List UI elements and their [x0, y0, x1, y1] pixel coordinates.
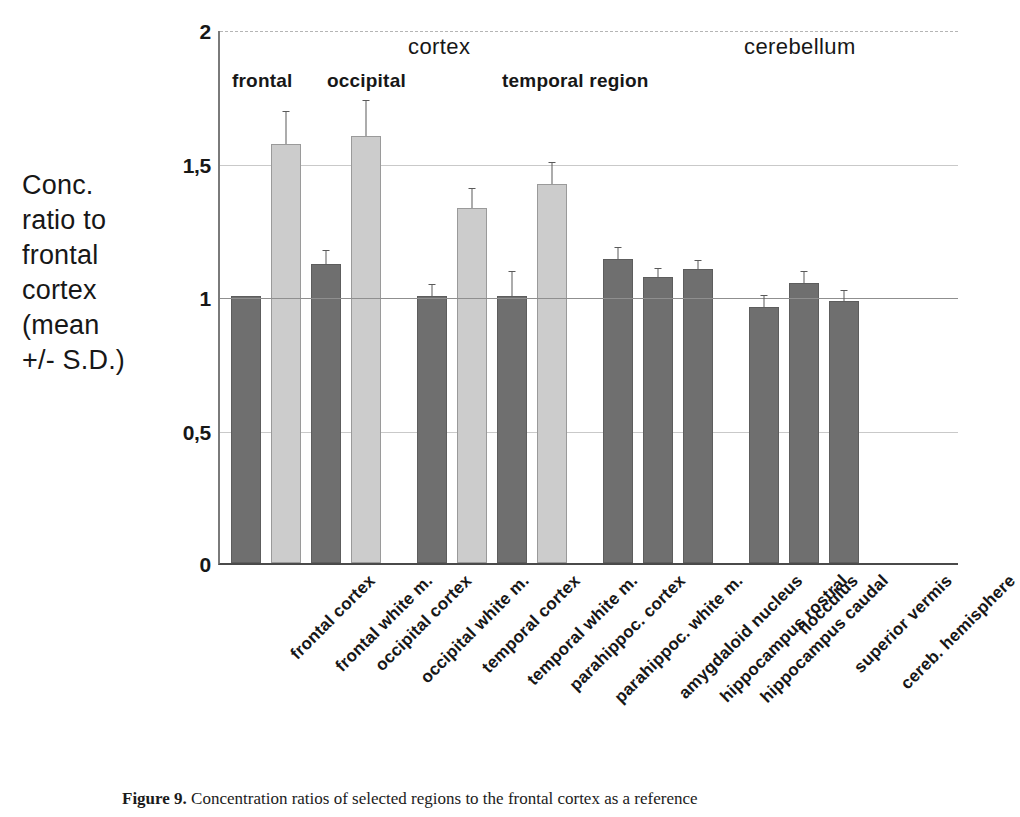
bar-slot — [537, 31, 567, 563]
bar-hippocampus-rostral[interactable] — [643, 277, 673, 563]
figure-caption-text: Concentration ratios of selected regions… — [191, 789, 697, 808]
y-axis-title-line-1: Conc. — [22, 168, 200, 203]
error-bar — [512, 272, 513, 296]
x-axis-tick-labels: frontal cortexfrontal white m.occipital … — [218, 567, 958, 757]
bar-slot — [497, 31, 527, 563]
x-tick-label: cereb. hemisphere — [897, 571, 1020, 694]
error-bar — [844, 291, 845, 302]
bar-slot — [417, 31, 447, 563]
error-bar — [552, 163, 553, 184]
y-axis-title: Conc. ratio to frontal cortex (mean +/- … — [22, 168, 200, 378]
bar-series — [220, 31, 958, 563]
bar-slot — [749, 31, 779, 563]
bar-superior-vermis[interactable] — [789, 283, 819, 563]
bar-amygdaloid-nucleus[interactable] — [603, 259, 633, 563]
bar-frontal-white-m-[interactable] — [271, 144, 301, 563]
y-axis-title-line-3: frontal — [22, 238, 200, 273]
error-bar-cap — [615, 247, 622, 248]
bar-slot — [311, 31, 341, 563]
error-bar-cap — [509, 271, 516, 272]
y-axis-title-line-4: cortex — [22, 273, 200, 308]
y-tick-label-1: 1 — [200, 287, 211, 311]
bar-slot — [271, 31, 301, 563]
gridline-1-reference: 1 — [220, 298, 958, 299]
error-bar-cap — [323, 250, 330, 251]
error-bar — [618, 248, 619, 259]
bar-slot — [643, 31, 673, 563]
bar-slot — [351, 31, 381, 563]
bar-occipital-cortex[interactable] — [311, 264, 341, 563]
error-bar-cap — [469, 188, 476, 189]
bar-parahippoc-white-m-[interactable] — [537, 184, 567, 563]
bar-temporal-white-m-[interactable] — [457, 208, 487, 563]
error-bar-cap — [549, 162, 556, 163]
bar-temporal-cortex[interactable] — [417, 296, 447, 563]
y-axis-title-line-5: (mean — [22, 308, 200, 343]
error-bar — [804, 272, 805, 283]
bar-slot — [603, 31, 633, 563]
error-bar-cap — [283, 111, 290, 112]
bar-cereb-hemisphere[interactable] — [829, 301, 859, 563]
error-bar — [366, 101, 367, 136]
error-bar-cap — [761, 295, 768, 296]
bar-flocculus[interactable] — [749, 307, 779, 563]
error-bar-cap — [695, 260, 702, 261]
y-tick-label-0: 0 — [200, 553, 211, 577]
bar-occipital-white-m-[interactable] — [351, 136, 381, 563]
error-bar — [326, 251, 327, 264]
bar-frontal-cortex[interactable] — [231, 296, 261, 563]
error-bar-cap — [801, 271, 808, 272]
error-bar — [472, 189, 473, 208]
error-bar-cap — [841, 290, 848, 291]
bar-slot — [231, 31, 261, 563]
bar-slot — [789, 31, 819, 563]
error-bar — [698, 261, 699, 269]
y-tick-label-1-5: 1,5 — [183, 154, 211, 178]
bar-parahippoc-cortex[interactable] — [497, 296, 527, 563]
y-tick-label-2: 2 — [200, 20, 211, 44]
error-bar-cap — [363, 100, 370, 101]
bar-hippocampus-caudal[interactable] — [683, 269, 713, 563]
error-bar — [658, 269, 659, 277]
error-bar-cap — [429, 284, 436, 285]
bar-slot — [457, 31, 487, 563]
y-tick-label-0-5: 0,5 — [183, 421, 211, 445]
error-bar-cap — [655, 268, 662, 269]
y-axis-title-line-6: +/- S.D.) — [22, 343, 200, 378]
figure-caption: Figure 9. Concentration ratios of select… — [122, 788, 972, 817]
plot-area: 2 1,5 1 0,5 0 — [218, 31, 958, 565]
error-bar — [286, 112, 287, 144]
bar-slot — [829, 31, 859, 563]
error-bar — [432, 285, 433, 296]
y-axis-title-line-2: ratio to — [22, 203, 200, 238]
bar-slot — [683, 31, 713, 563]
error-bar — [764, 296, 765, 307]
figure-caption-number: Figure 9. — [122, 789, 187, 808]
